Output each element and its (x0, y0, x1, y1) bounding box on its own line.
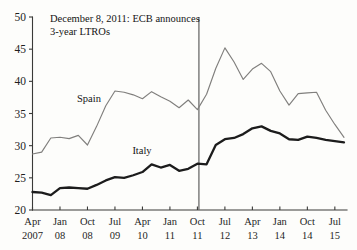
x-tick-label-year-10: 14 (302, 230, 313, 241)
y-tick-label-40: 40 (15, 75, 27, 87)
plot-axes (33, 17, 348, 210)
x-tick-label-year-0: 2007 (22, 230, 43, 241)
x-tick-label-month-4: Apr (134, 216, 151, 227)
y-tick-label-50: 50 (15, 11, 27, 23)
series-label-italy: Italy (132, 145, 152, 156)
inline-series-labels: Spain Italy (77, 93, 152, 156)
annotation-group: December 8, 2011: ECB announces 3-year L… (50, 13, 200, 37)
x-tick-label-month-1: Jan (53, 216, 68, 227)
x-tick-label-year-4: 10 (137, 230, 148, 241)
x-tick-label-month-6: Oct (190, 216, 205, 227)
x-tick-label-month-7: Jul (219, 216, 231, 227)
x-tick-label-year-5: 11 (165, 230, 175, 241)
x-tick-label-month-5: Jan (163, 216, 178, 227)
x-tick-label-month-10: Oct (300, 216, 315, 227)
x-tick-label-year-11: 15 (330, 230, 341, 241)
event-annotation-line-2: 3-year LTROs (50, 26, 110, 37)
x-tick-label-month-9: Jan (273, 216, 288, 227)
x-tick-label-month-8: Apr (244, 216, 261, 227)
x-tick-label-year-6: 11 (192, 230, 202, 241)
y-tick-label-35: 35 (15, 108, 27, 120)
event-annotation-line-1: December 8, 2011: ECB announces (50, 13, 200, 24)
chart-container: 20253035404550 Apr2007Jan08Oct08Jul09Apr… (0, 0, 357, 250)
y-axis-tick-labels: 20253035404550 (15, 11, 27, 216)
data-series-group (33, 48, 345, 195)
x-tick-label-month-3: Jul (109, 216, 121, 227)
x-tick-label-year-2: 08 (82, 230, 93, 241)
y-tick-label-45: 45 (15, 43, 27, 55)
x-tick-label-month-2: Oct (80, 216, 95, 227)
x-tick-label-month-11: Jul (329, 216, 341, 227)
y-tick-label-30: 30 (15, 140, 27, 152)
x-tick-label-month-0: Apr (24, 216, 41, 227)
x-tick-label-year-3: 09 (110, 230, 121, 241)
y-tick-label-20: 20 (15, 204, 27, 216)
y-tick-label-25: 25 (15, 172, 27, 184)
x-tick-label-year-1: 08 (55, 230, 66, 241)
line-chart: 20253035404550 Apr2007Jan08Oct08Jul09Apr… (0, 0, 357, 250)
x-axis-tick-labels: Apr2007Jan08Oct08Jul09Apr10Jan11Oct11Jul… (22, 216, 341, 241)
x-tick-label-year-8: 13 (247, 230, 258, 241)
series-label-spain: Spain (77, 93, 102, 104)
x-tick-label-year-7: 12 (220, 230, 231, 241)
x-tick-label-year-9: 14 (275, 230, 286, 241)
